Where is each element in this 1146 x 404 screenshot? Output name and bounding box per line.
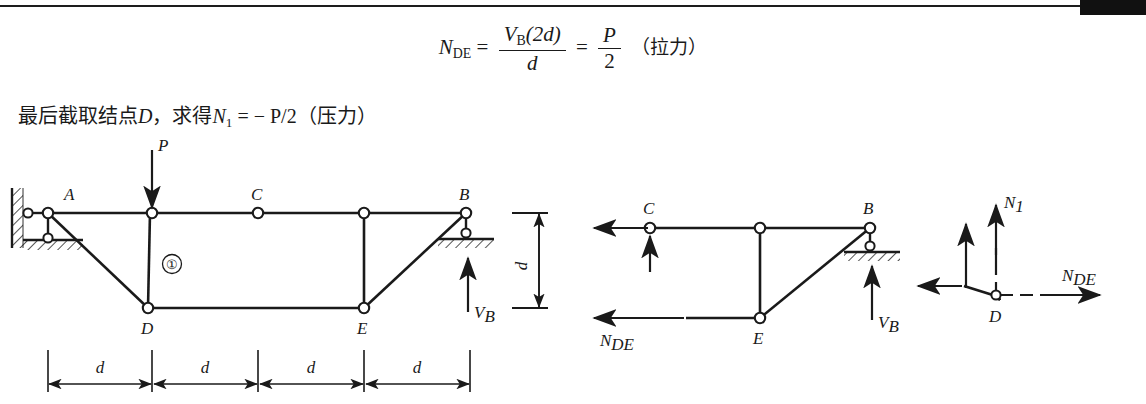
fb2-label-node-e: E (752, 329, 764, 348)
fb3-label-node-d: D (988, 307, 1002, 326)
joint-d (143, 303, 153, 313)
joint-c (253, 208, 263, 218)
label-dim-d-3: d (307, 358, 316, 377)
wall-support (12, 188, 23, 248)
member-label-1-text: ① (166, 257, 178, 272)
label-dimension-vertical-d: d (512, 261, 531, 270)
fb2-label-node-c: C (643, 199, 655, 218)
label-dim-d-1: d (96, 358, 105, 377)
ground-support-a (23, 240, 83, 250)
dimension-vertical-d: d (512, 213, 548, 308)
support-pin-wall (23, 208, 32, 217)
fb2-label-nde: NDE (599, 331, 635, 354)
figure-3-joint-d: N1 NDE D (918, 193, 1100, 326)
member-label-1: ① (163, 255, 182, 274)
dimension-chain-horizontal: d d d d (48, 350, 470, 392)
joint-e (359, 303, 369, 313)
diagonal-ad (48, 213, 148, 308)
label-node-c: C (251, 185, 263, 204)
label-node-b: B (459, 185, 470, 204)
diagonal-eb (364, 213, 466, 308)
fb3-joint-d (991, 290, 1000, 299)
figures-canvas: P A C B D E ① VB d (0, 0, 1146, 404)
label-load-p: P (157, 136, 168, 155)
fb2-label-node-b: B (863, 199, 874, 218)
label-dim-d-4: d (413, 358, 422, 377)
joint-load-p (147, 208, 157, 218)
fb2-label-vb: VB (878, 313, 899, 336)
figure-1-truss: P A C B D E ① VB d (12, 136, 548, 392)
label-dim-d-2: d (201, 358, 210, 377)
joint-a (43, 208, 53, 218)
fb3-label-nde: NDE (1061, 266, 1097, 289)
label-node-a: A (63, 185, 75, 204)
page-root: NDE = VB(2d) d = P 2 （拉力） 最后截取结点D，求得N1 =… (0, 0, 1146, 404)
joint-top-right (359, 208, 369, 218)
label-node-d: D (140, 319, 154, 338)
fb2-diagonal-eb (760, 228, 870, 318)
label-vb-figure1: VB (474, 303, 495, 326)
reaction-vb-figure1: VB (468, 258, 495, 326)
fb2-joint-e (755, 313, 765, 323)
fb2-joint-top (755, 223, 765, 233)
joint-b (461, 208, 471, 218)
label-node-e: E (356, 319, 368, 338)
fb3-label-n1: N1 (1003, 193, 1024, 216)
support-pin-ground (43, 233, 52, 242)
figure-2-free-body-right: C B E NDE VB (594, 199, 900, 354)
fb2-joint-b (865, 223, 875, 233)
vertical-member-1 (148, 213, 150, 308)
